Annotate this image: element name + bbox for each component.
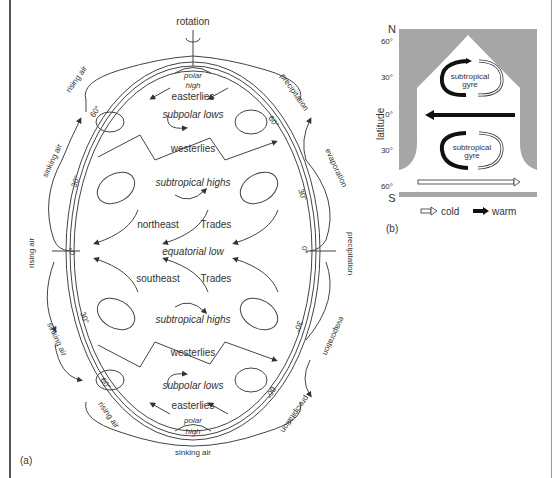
lat-right-0: 0° (300, 246, 309, 254)
subtropical-highs-south: subtropical highs (155, 314, 230, 325)
precipitation-equator: precipitation (346, 232, 355, 275)
subpolar-lows-south: subpolar lows (162, 380, 223, 391)
precipitation-south: precipitation (279, 394, 311, 435)
latitude-axis-label: latitude (375, 107, 386, 140)
subtropical-high-cell-sw (92, 292, 141, 336)
subpolar-low-cell-se (235, 368, 267, 392)
westerlies-north: westerlies (170, 143, 215, 154)
cell-right-hadley-s (306, 262, 330, 340)
evaporation-south: evaporation (321, 315, 347, 357)
tick-60s: 60° (381, 182, 393, 191)
se-trade-arrow-3 (235, 259, 278, 292)
easterlies-south: easterlies (172, 400, 215, 411)
lat-right-60n: 60° (266, 114, 280, 129)
tick-60n: 60° (381, 37, 393, 46)
north-label: N (388, 23, 396, 35)
subtropical-high-cell-ne (235, 166, 284, 210)
circumpolar-cold-current (418, 180, 514, 184)
legend-warm-swatch (473, 209, 483, 213)
sinking-air-bottom: sinking air (175, 448, 211, 457)
rising-air-equator: rising air (27, 237, 36, 268)
equatorial-low-label: equatorial low (162, 246, 224, 257)
trades-south-label: Trades (201, 273, 232, 284)
lat-right-60s: 60° (263, 385, 277, 400)
rising-air-south: rising air (96, 400, 121, 430)
lat-right-30s: 30° (292, 319, 305, 333)
legend-cold-swatch (421, 209, 431, 213)
subpolar-low-cell-ne (235, 110, 267, 134)
polar-high-top-l1: polar (183, 71, 202, 80)
subtropical-highs-north: subtropical highs (155, 177, 230, 188)
antarctic-strip (399, 192, 537, 197)
rising-air-north: rising air (64, 64, 89, 94)
panel-b-label: (b) (386, 223, 398, 234)
subtropical-high-cell-nw (92, 166, 141, 210)
se-trade-arrow-1 (96, 259, 138, 292)
subpolar-lows-north: subpolar lows (162, 109, 223, 120)
lat-left-0: 0° (68, 247, 77, 255)
polar-high-bottom-l2: high (185, 427, 201, 436)
cell-right-hadley-n (306, 160, 330, 251)
panel-a-label: (a) (20, 455, 32, 466)
tick-30n: 30° (381, 73, 393, 82)
sinking-air-north: sinking air (41, 142, 65, 179)
precipitation-north: precipitation (278, 72, 310, 113)
diagram-canvas: rotation (0, 0, 559, 478)
lat-left-60n: 60° (88, 104, 102, 119)
polar-high-top-l2: high (185, 81, 201, 90)
legend-cold-label: cold (441, 206, 459, 217)
westerlies-south: westerlies (170, 347, 215, 358)
ne-trade-arrow-1 (96, 210, 138, 243)
tick-30s: 30° (381, 146, 393, 155)
gyre-south-l2: gyre (464, 151, 480, 160)
subtropical-high-cell-se (235, 292, 284, 336)
panel-b: subtropical gyre subtropical gyre N S 60… (375, 23, 537, 234)
ne-trade-arrow-3 (235, 210, 278, 243)
tick-0: 0° (385, 110, 393, 119)
legend-warm-label: warm (491, 206, 516, 217)
southeast-label: southeast (136, 273, 180, 284)
northeast-label: northeast (137, 219, 179, 230)
polar-high-bottom-l1: polar (183, 416, 202, 425)
gyre-north-l2: gyre (462, 80, 478, 89)
trades-north-label: Trades (201, 219, 232, 230)
equatorial-warm-current (432, 113, 515, 117)
south-label: S (388, 192, 395, 204)
rotation-label: rotation (176, 16, 209, 27)
evaporation-north: evaporation (323, 147, 349, 189)
easterlies-north: easterlies (172, 91, 215, 102)
